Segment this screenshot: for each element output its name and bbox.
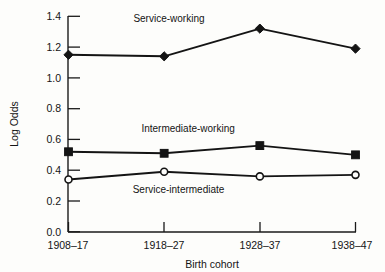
x-tick-label-1938-47: 1938–47 bbox=[332, 239, 373, 251]
data-point bbox=[351, 44, 360, 53]
data-point bbox=[161, 168, 168, 175]
data-point bbox=[160, 52, 169, 61]
series-annotation-service-intermediate: Service-intermediate bbox=[133, 184, 225, 195]
y-tick-label-1-0: 1.0 bbox=[46, 72, 61, 84]
y-tick-marks bbox=[68, 16, 80, 232]
chart-svg: 1.4 1.2 1.0 0.8 0.6 0.4 0.2 0.0 Log Odds… bbox=[0, 0, 385, 272]
data-point bbox=[256, 142, 264, 150]
x-tick-label-1928-37: 1928–37 bbox=[240, 239, 281, 251]
series-intermediate-working bbox=[65, 142, 360, 159]
series-line-intermediate-working bbox=[69, 146, 356, 155]
y-tick-label-0-8: 0.8 bbox=[46, 102, 61, 114]
x-axis-title: Birth cohort bbox=[185, 258, 239, 270]
data-point bbox=[352, 171, 359, 178]
data-point bbox=[352, 151, 360, 159]
y-tick-label-1-2: 1.2 bbox=[46, 41, 61, 53]
data-point bbox=[256, 173, 263, 180]
x-tick-label-1908-17: 1908–17 bbox=[48, 239, 89, 251]
x-tick-label-1918-27: 1918–27 bbox=[144, 239, 185, 251]
data-point bbox=[65, 148, 73, 156]
y-tick-label-0-4: 0.4 bbox=[46, 164, 61, 176]
y-tick-label-1-4: 1.4 bbox=[46, 10, 61, 22]
data-point bbox=[160, 149, 168, 157]
series-service-intermediate bbox=[65, 168, 359, 183]
series-line-service-intermediate bbox=[69, 172, 356, 180]
series-annotation-service-working: Service-working bbox=[133, 13, 204, 24]
series-line-service-working bbox=[69, 29, 356, 57]
series-annotation-intermediate-working: Intermediate-working bbox=[141, 123, 234, 134]
line-chart: 1.4 1.2 1.0 0.8 0.6 0.4 0.2 0.0 Log Odds… bbox=[0, 0, 385, 272]
y-tick-label-0-6: 0.6 bbox=[46, 133, 61, 145]
y-tick-label-0-0: 0.0 bbox=[46, 226, 61, 238]
data-point bbox=[64, 50, 73, 59]
x-tick-marks bbox=[69, 222, 356, 232]
series-service-working bbox=[64, 24, 360, 61]
data-point bbox=[255, 24, 264, 33]
y-axis-title: Log Odds bbox=[8, 101, 20, 147]
y-tick-label-0-2: 0.2 bbox=[46, 195, 61, 207]
data-point bbox=[65, 176, 72, 183]
